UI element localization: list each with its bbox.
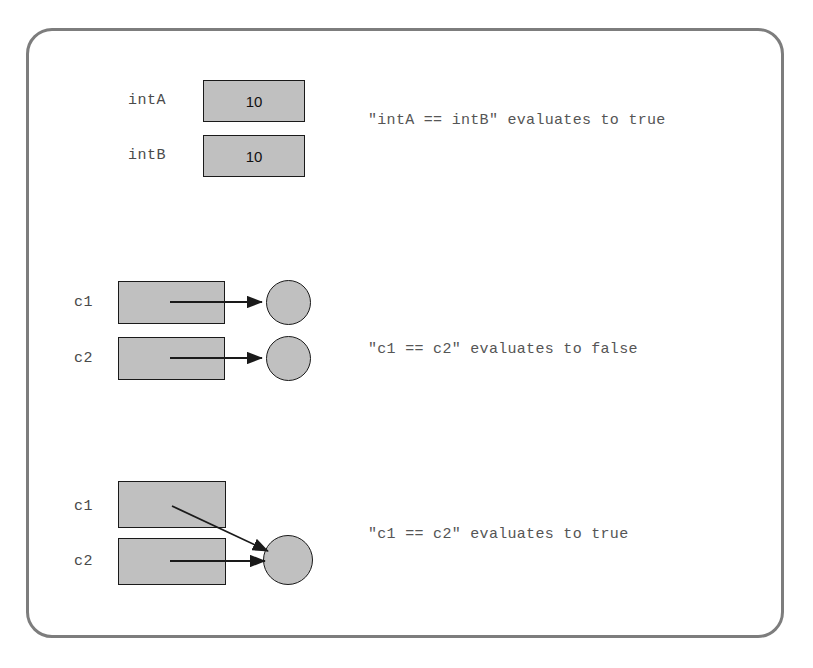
object-circle-distinct-2	[266, 336, 311, 381]
object-circle-shared	[263, 535, 313, 585]
variable-label-intA: intA	[128, 92, 166, 109]
variable-label-intB: intB	[128, 147, 166, 164]
value-box-intA-value: 10	[204, 81, 304, 121]
reference-box-c1-aliased	[118, 481, 226, 528]
variable-label-c2-distinct: c2	[74, 350, 93, 367]
diagram-canvas: intA 10 intB 10 "intA == intB" evaluates…	[0, 0, 813, 668]
variable-label-c1-aliased: c1	[74, 498, 93, 515]
variable-label-c1-distinct: c1	[74, 294, 93, 311]
reference-box-c1-distinct	[118, 281, 225, 324]
value-box-intA: 10	[203, 80, 305, 122]
object-circle-distinct-1	[266, 280, 311, 325]
reference-box-c2-aliased	[118, 538, 226, 585]
caption-primitives: "intA == intB" evaluates to true	[368, 112, 666, 129]
value-box-intB-value: 10	[204, 136, 304, 176]
value-box-intB: 10	[203, 135, 305, 177]
caption-aliased-references: "c1 == c2" evaluates to true	[368, 526, 628, 543]
reference-box-c2-distinct	[118, 337, 225, 380]
variable-label-c2-aliased: c2	[74, 553, 93, 570]
caption-distinct-references: "c1 == c2" evaluates to false	[368, 341, 638, 358]
